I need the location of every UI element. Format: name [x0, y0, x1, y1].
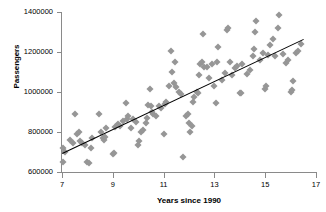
- x-tick-label: 17: [306, 180, 326, 189]
- x-tick-label: 9: [103, 180, 123, 189]
- x-tick-mark: [164, 173, 165, 178]
- scatter-chart: Passengers 60000080000010000001200000140…: [0, 0, 326, 212]
- x-tick-label: 11: [154, 180, 174, 189]
- x-tick-mark: [113, 173, 114, 178]
- x-axis-line: [61, 172, 317, 173]
- y-tick-label: 800000: [28, 128, 53, 136]
- y-axis-title: Passengers: [12, 27, 21, 107]
- x-axis-title: Years since 1990: [62, 196, 316, 205]
- x-tick-mark: [62, 173, 63, 178]
- y-tick-label: 1000000: [24, 88, 53, 96]
- x-tick-label: 7: [52, 180, 72, 189]
- x-tick-label: 13: [204, 180, 224, 189]
- x-tick-label: 15: [255, 180, 275, 189]
- y-tick-label: 1400000: [24, 8, 53, 16]
- y-tick-label: 600000: [28, 168, 53, 176]
- x-tick-mark: [214, 173, 215, 178]
- x-tick-mark: [265, 173, 266, 178]
- x-tick-mark: [316, 173, 317, 178]
- y-tick-label: 1200000: [24, 48, 53, 56]
